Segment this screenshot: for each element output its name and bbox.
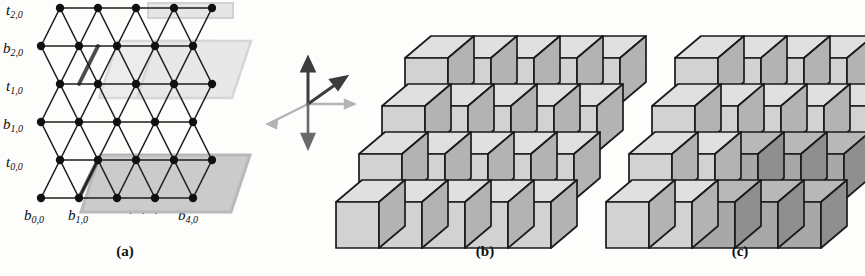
caption-b: (b) <box>455 243 515 260</box>
lattice-node <box>94 80 102 88</box>
lattice-node <box>170 80 178 88</box>
lattice-node <box>189 118 197 126</box>
lattice-node <box>189 194 197 202</box>
lattice-node <box>132 156 140 164</box>
lattice-node <box>151 42 159 50</box>
lattice-node <box>75 194 83 202</box>
lattice-node <box>189 42 197 50</box>
lattice-node <box>151 194 159 202</box>
figure-root: t2,0 b2,0 t1,0 b1,0 t0,0 b0,0 b1,0 · · ·… <box>0 0 865 276</box>
shaded-parallelogram-lower <box>81 155 250 212</box>
lattice-node <box>75 118 83 126</box>
cube-stack-b-graphic <box>330 0 620 235</box>
lattice-node <box>56 80 64 88</box>
lattice-node <box>113 194 121 202</box>
lattice-node <box>132 80 140 88</box>
lattice-node <box>170 156 178 164</box>
lattice-node <box>56 156 64 164</box>
cube-face-front <box>606 202 649 248</box>
caption-a: (a) <box>95 243 155 260</box>
panel-c-cubes <box>600 0 865 276</box>
lattice-node <box>37 42 45 50</box>
lattice-node <box>37 118 45 126</box>
lattice-node <box>56 4 64 12</box>
lattice-node <box>208 156 216 164</box>
lattice-node <box>132 4 140 12</box>
lattice-node <box>94 4 102 12</box>
axis-arrowhead-down-left <box>268 120 277 128</box>
axis-arrowhead-up <box>302 58 314 71</box>
axis-arrow-down-group <box>302 104 314 148</box>
panel-a-lattice: t2,0 b2,0 t1,0 b1,0 t0,0 b0,0 b1,0 · · ·… <box>0 0 275 276</box>
cube-face-front <box>336 202 379 248</box>
lattice-node <box>94 156 102 164</box>
cube-stack-c-graphic <box>600 0 865 235</box>
lattice-node <box>75 42 83 50</box>
lattice-node <box>208 4 216 12</box>
lattice-node <box>113 42 121 50</box>
lattice-node <box>113 118 121 126</box>
shaded-regions <box>81 3 251 212</box>
panel-b-cubes <box>330 0 620 276</box>
caption-c: (c) <box>710 243 770 260</box>
lattice-node <box>151 118 159 126</box>
shaded-strip-top <box>148 3 233 18</box>
lattice-node <box>37 194 45 202</box>
lattice-graphic <box>0 0 275 230</box>
lattice-node <box>170 4 178 12</box>
axis-arrowhead-down <box>302 134 314 148</box>
lattice-node <box>208 80 216 88</box>
